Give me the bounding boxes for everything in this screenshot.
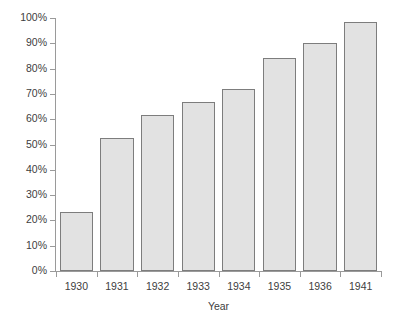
bar-slot [178,18,219,271]
bar-chart: 0%10%20%30%40%50%60%70%80%90%100% 193019… [0,0,411,329]
bar-slot [300,18,341,271]
bar[interactable] [222,89,255,271]
x-axis-tick-mark [97,271,98,277]
bar-slot [340,18,381,271]
bar-slot [219,18,260,271]
bar[interactable] [303,43,336,271]
x-axis-tick-label: 1933 [178,280,219,293]
bar[interactable] [263,58,296,271]
x-axis-tick-mark [178,271,179,277]
x-axis-tick-mark [137,271,138,277]
x-axis-tick-label: 1936 [300,280,341,293]
y-axis-tick-label: 20% [26,213,47,226]
y-axis-tick-label: 30% [26,188,47,201]
y-axis-tick-label: 80% [26,62,47,75]
bar[interactable] [182,102,215,272]
x-axis-tick-label: 1935 [259,280,300,293]
x-axis-tick-mark [259,271,260,277]
bar-slot [259,18,300,271]
y-axis-tick-label: 0% [32,264,47,277]
y-axis-tick-label: 90% [26,36,47,49]
bar[interactable] [100,138,133,271]
x-axis-tick-mark [381,271,382,277]
plot-area [56,18,381,271]
bar-slot [97,18,138,271]
x-axis-tick-label: 1941 [340,280,381,293]
bar-slot [137,18,178,271]
y-axis-tick-label: 100% [20,11,47,24]
x-axis-tick-mark [219,271,220,277]
x-axis-tick-mark [300,271,301,277]
bar[interactable] [344,22,377,271]
y-axis-tick-label: 50% [26,138,47,151]
x-axis-tick-label: 1931 [97,280,138,293]
bar-slot [56,18,97,271]
x-axis-tick-label: 1932 [137,280,178,293]
x-axis-tick-label: 1934 [219,280,260,293]
x-axis-title: Year [56,300,381,313]
y-axis-tick-label: 60% [26,112,47,125]
x-axis-tick-label: 1930 [56,280,97,293]
x-axis-tick-mark [56,271,57,277]
y-axis-tick-label: 70% [26,87,47,100]
y-axis-tick-label: 10% [26,239,47,252]
bar[interactable] [60,212,93,271]
bar[interactable] [141,115,174,271]
x-axis-tick-mark [340,271,341,277]
y-axis-tick-label: 40% [26,163,47,176]
